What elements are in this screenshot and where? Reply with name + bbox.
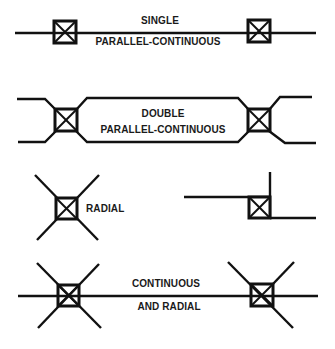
continuous-radial-figure xyxy=(18,262,318,328)
continuous-radial-label-line1: CONTINUOUS xyxy=(132,278,200,289)
junction-box-icon xyxy=(55,109,77,131)
junction-box-icon xyxy=(249,197,270,218)
radial-arm xyxy=(272,262,294,285)
double-top-left-line xyxy=(17,99,56,110)
radial-label: RADIAL xyxy=(86,203,124,214)
double-bottom-left-line xyxy=(18,131,56,142)
junction-box-icon xyxy=(54,21,76,43)
junction-box-icon xyxy=(248,109,270,131)
double-top-right-line xyxy=(269,97,312,110)
double-label-line1: DOUBLE xyxy=(142,108,185,119)
single-label-line2: PARALLEL-CONTINUOUS xyxy=(95,36,220,47)
continuous-radial-label-line2: AND RADIAL xyxy=(137,301,200,312)
double-bottom-right-line xyxy=(269,131,316,143)
diagram-canvas xyxy=(0,0,335,349)
radial-corner-figure xyxy=(184,172,316,219)
junction-box-icon xyxy=(248,20,270,42)
double-parallel-continuous-figure xyxy=(17,97,316,143)
double-label-line2: PARALLEL-CONTINUOUS xyxy=(100,124,225,135)
junction-box-icon xyxy=(56,198,77,219)
single-label-line1: SINGLE xyxy=(141,15,179,26)
